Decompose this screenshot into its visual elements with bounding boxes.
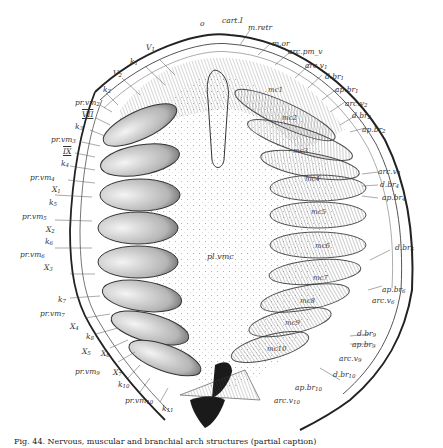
label-arc-pmv: arc.pm_v: [288, 48, 323, 56]
label-dbr9: d.br9: [357, 330, 376, 339]
label-X6: X6: [101, 350, 110, 359]
label-k5: k5: [49, 199, 57, 208]
label-mc4: mc4: [305, 176, 320, 183]
label-arcv9: arc.v9: [339, 355, 361, 364]
label-mc1: mc1: [268, 87, 283, 94]
label-X4: X4: [70, 323, 79, 332]
label-V1: V1: [146, 44, 155, 53]
figure-caption: Fig. 44. Nervous, muscular and branchial…: [14, 437, 434, 446]
label-mc2: mc2: [282, 115, 297, 122]
label-prvm9: pr.vm9: [75, 368, 100, 377]
label-k2: k2: [103, 86, 111, 95]
label-dbr6: d.br6: [395, 244, 414, 253]
label-prvm4: pr.vm4: [30, 174, 55, 183]
label-m-retr: m.retr: [248, 24, 272, 32]
label-k7: k7: [58, 296, 66, 305]
label-dbr4: d.br4: [380, 181, 399, 190]
label-apbr9: ap.br9: [352, 341, 376, 350]
label-X1: X1: [52, 186, 61, 195]
label-mc6: mc6: [315, 243, 330, 250]
label-cart: cart.I: [222, 17, 243, 25]
label-k3: k3: [75, 123, 83, 132]
label-dbr10: d.br10: [333, 371, 356, 380]
label-IX: IX: [63, 148, 71, 156]
label-prvm7: pr.vm7: [40, 310, 65, 319]
label-dbr1: d.br1: [325, 73, 344, 82]
label-mc8: mc8: [300, 298, 315, 305]
label-k11: k11: [162, 405, 174, 414]
label-prvm5: pr.vm5: [22, 213, 47, 222]
label-m-or: m.or: [272, 40, 290, 48]
label-prvm6: pr.vm6: [20, 251, 45, 260]
label-apbr6: ap.br6: [382, 286, 406, 295]
label-mc7: mc7: [313, 275, 328, 282]
label-prvm10: pr.vm10: [125, 397, 153, 406]
label-prvm3: pr.vm3: [51, 136, 76, 145]
label-X2: X2: [46, 226, 55, 235]
label-arcv1: arc.v1: [305, 62, 327, 71]
label-k8: k8: [86, 333, 94, 342]
label-mc10: mc10: [267, 346, 286, 353]
label-k1: k1: [130, 58, 138, 67]
label-arcv2: arc.v2: [345, 100, 367, 109]
label-o: o: [200, 20, 205, 28]
label-arcv6: arc.v6: [372, 297, 394, 306]
label-mc5: mc5: [311, 209, 326, 216]
label-X7: X7: [113, 369, 122, 378]
bottom-wedge: [190, 396, 225, 428]
label-k10: k10: [118, 381, 130, 390]
label-apbr2: ap.br2: [362, 126, 386, 135]
label-apbr4: ap.br4: [382, 194, 406, 203]
label-apbr10: ap.br10: [295, 384, 322, 393]
label-arcv10: arc.v10: [274, 397, 300, 406]
label-VII: VII: [82, 111, 93, 119]
label-V2: V2: [113, 70, 122, 79]
label-prvm2: pr.vm2: [75, 99, 100, 108]
label-k4: k4: [61, 160, 69, 169]
label-apbr1: ap.br1: [335, 86, 359, 95]
label-plvmc: pl.vmc: [207, 253, 234, 261]
label-k6: k6: [45, 238, 53, 247]
label-mc9: mc9: [285, 320, 300, 327]
anatomical-figure: [0, 0, 443, 448]
label-arcv4: arc.v4: [378, 168, 400, 177]
label-X5: X5: [82, 348, 91, 357]
label-dbr2: d.br2: [352, 112, 371, 121]
label-X3: X3: [44, 264, 53, 273]
label-mc3: mc3: [293, 148, 308, 155]
